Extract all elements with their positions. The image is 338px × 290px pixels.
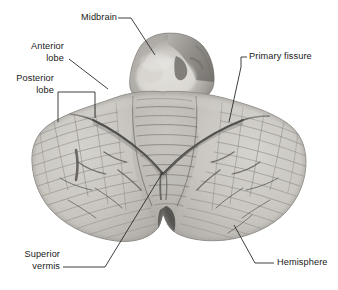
cerebellum-figure: Midbrain Anterior lobe Posterior lobe Pr… xyxy=(0,0,338,290)
leader-lines xyxy=(0,0,338,290)
leader-anterior-lobe xyxy=(69,59,108,89)
leader-midbrain xyxy=(118,18,155,55)
leader-primary-fissure xyxy=(229,57,247,122)
leader-hemisphere xyxy=(234,225,274,263)
leader-superior-vermis xyxy=(63,172,163,267)
